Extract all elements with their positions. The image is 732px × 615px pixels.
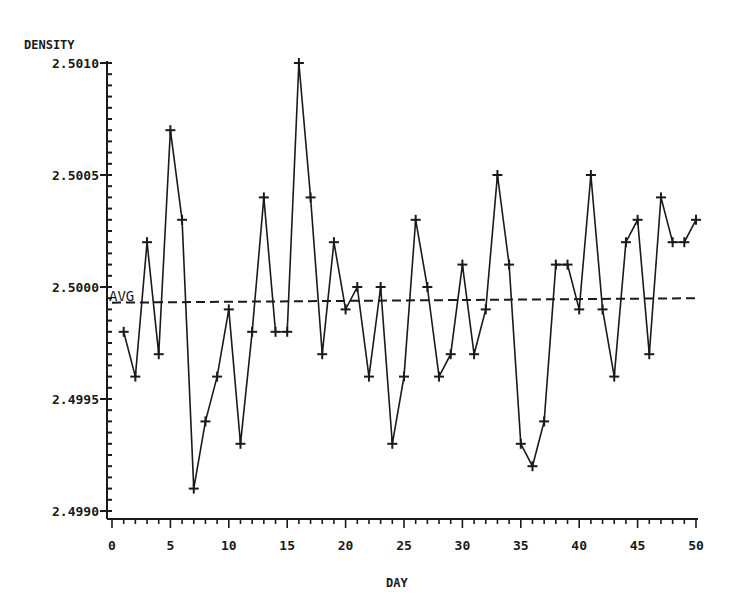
- plus-marker-icon: [411, 215, 421, 225]
- plus-marker-icon: [364, 372, 374, 382]
- x-tick-label: 40: [571, 538, 587, 553]
- y-tick-label: 2.4995: [52, 392, 99, 407]
- plus-marker-icon: [446, 349, 456, 359]
- plus-marker-icon: [271, 327, 281, 337]
- density-control-chart: 2.49902.49952.50002.50052.5010 051015202…: [0, 0, 732, 615]
- plus-marker-icon: [656, 192, 666, 202]
- plus-marker-icon: [539, 416, 549, 426]
- plus-marker-icon: [422, 282, 432, 292]
- x-tick-label: 0: [108, 538, 116, 553]
- average-reference-line: [112, 298, 696, 302]
- plus-marker-icon: [469, 349, 479, 359]
- plus-marker-icon: [598, 304, 608, 314]
- x-axis-title: DAY: [386, 576, 408, 590]
- x-tick-label: 50: [688, 538, 704, 553]
- plus-marker-icon: [329, 237, 339, 247]
- plus-marker-icon: [177, 215, 187, 225]
- plus-marker-icon: [586, 170, 596, 180]
- plus-marker-icon: [165, 125, 175, 135]
- plus-marker-icon: [668, 237, 678, 247]
- y-axis: 2.49902.49952.50002.50052.5010: [52, 56, 112, 519]
- x-tick-label: 35: [513, 538, 529, 553]
- plus-marker-icon: [200, 416, 210, 426]
- x-tick-label: 20: [338, 538, 354, 553]
- plus-marker-icon: [457, 260, 467, 270]
- plus-marker-icon: [247, 327, 257, 337]
- avg-label: AVG: [109, 288, 134, 304]
- plus-marker-icon: [341, 304, 351, 314]
- plus-marker-icon: [306, 192, 316, 202]
- plus-marker-icon: [119, 327, 129, 337]
- x-axis: 05101520253035404550: [107, 519, 704, 553]
- plus-marker-icon: [189, 484, 199, 494]
- x-tick-label: 25: [396, 538, 412, 553]
- plus-marker-icon: [691, 215, 701, 225]
- y-axis-title: DENSITY: [24, 38, 75, 52]
- plus-marker-icon: [527, 461, 537, 471]
- x-tick-label: 15: [279, 538, 295, 553]
- plus-marker-icon: [154, 349, 164, 359]
- density-series: [119, 58, 701, 494]
- plus-marker-icon: [282, 327, 292, 337]
- plus-marker-icon: [644, 349, 654, 359]
- x-tick-label: 45: [630, 538, 646, 553]
- plus-marker-icon: [317, 349, 327, 359]
- x-tick-label: 30: [455, 538, 471, 553]
- plus-marker-icon: [516, 439, 526, 449]
- x-tick-label: 10: [221, 538, 237, 553]
- y-tick-label: 2.5010: [52, 56, 99, 71]
- plus-marker-icon: [679, 237, 689, 247]
- plus-marker-icon: [212, 372, 222, 382]
- x-tick-label: 5: [166, 538, 174, 553]
- y-tick-label: 2.5005: [52, 168, 99, 183]
- plus-marker-icon: [399, 372, 409, 382]
- plus-marker-icon: [551, 260, 561, 270]
- plus-marker-icon: [492, 170, 502, 180]
- plus-marker-icon: [481, 304, 491, 314]
- plus-marker-icon: [387, 439, 397, 449]
- plus-marker-icon: [633, 215, 643, 225]
- plus-marker-icon: [563, 260, 573, 270]
- plus-marker-icon: [294, 58, 304, 68]
- plus-marker-icon: [224, 304, 234, 314]
- y-tick-label: 2.5000: [52, 280, 99, 295]
- y-tick-label: 2.4990: [52, 504, 99, 519]
- plus-marker-icon: [352, 282, 362, 292]
- plus-marker-icon: [130, 372, 140, 382]
- plus-marker-icon: [259, 192, 269, 202]
- plus-marker-icon: [621, 237, 631, 247]
- plus-marker-icon: [574, 304, 584, 314]
- plus-marker-icon: [235, 439, 245, 449]
- plus-marker-icon: [376, 282, 386, 292]
- plus-marker-icon: [504, 260, 514, 270]
- plus-marker-icon: [609, 372, 619, 382]
- plus-marker-icon: [434, 372, 444, 382]
- plus-marker-icon: [142, 237, 152, 247]
